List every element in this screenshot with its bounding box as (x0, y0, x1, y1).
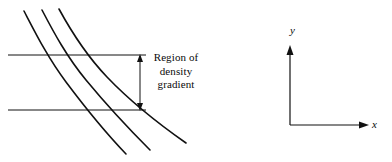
y-axis-label: y (290, 25, 295, 36)
x-axis-label: x (372, 119, 377, 130)
y-axis-arrow-head (287, 45, 294, 55)
x-axis-arrow-head (359, 122, 369, 129)
region-label-line-1: Region of (147, 51, 205, 65)
region-label-line-2: density (147, 65, 205, 79)
coordinate-axes-group (287, 45, 370, 129)
density-curve-1 (24, 11, 126, 154)
density-gradient-figure: Region of density gradient y x (0, 0, 392, 162)
region-dimension-arrow (137, 54, 143, 111)
boundary-lines-group (8, 55, 146, 110)
density-curve-2 (42, 10, 150, 150)
region-of-density-gradient-label: Region of density gradient (147, 51, 205, 92)
region-label-line-3: gradient (147, 78, 205, 92)
